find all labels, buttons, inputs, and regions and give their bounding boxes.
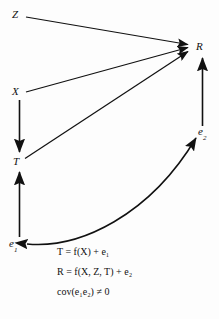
equation-covariance: cov(e₁e₂) ≠ 0 [57, 287, 207, 297]
node-label-e2-subscript: 2 [203, 134, 207, 142]
node-label-e1-subscript: 1 [14, 246, 18, 254]
equation-block: T = f(X) + e₁ R = f(X, Z, T) + e₂ cov(e₁… [57, 247, 207, 297]
path-diagram-figure: Z X T R e1 e2 T = f(X) + e₁ R = f(X, Z, … [0, 0, 219, 319]
node-label-e2: e2 [198, 126, 207, 140]
node-label-x: X [12, 86, 19, 97]
edge-z-to-r [26, 17, 188, 45]
node-label-r: R [196, 41, 203, 52]
edge-t-to-r [25, 52, 188, 159]
equation-r: R = f(X, Z, T) + e₂ [57, 267, 207, 277]
edge-e1-e2-covariance [27, 138, 196, 244]
equation-t: T = f(X) + e₁ [57, 247, 207, 257]
node-label-e1: e1 [9, 238, 18, 252]
node-label-z: Z [12, 9, 18, 20]
edge-x-to-r [26, 48, 188, 93]
node-label-t: T [13, 156, 19, 167]
